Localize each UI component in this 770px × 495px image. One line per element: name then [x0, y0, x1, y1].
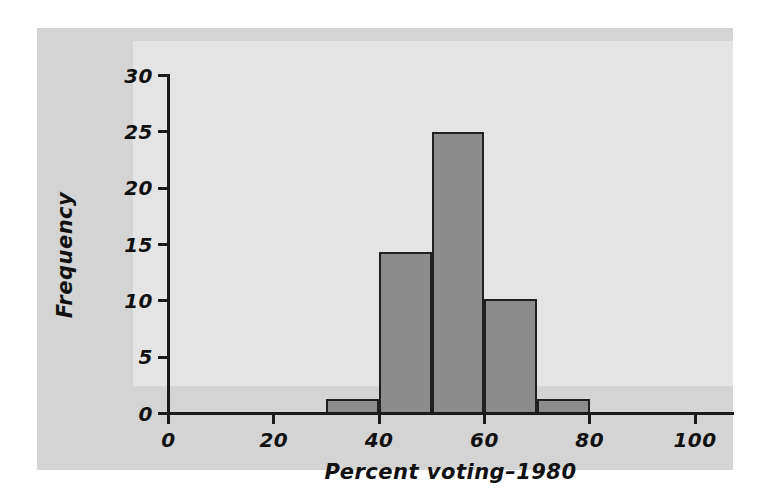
- y-axis-tick-label: 20: [124, 176, 153, 200]
- x-axis-tick: [378, 414, 381, 424]
- y-axis-tick-label: 0: [139, 402, 153, 426]
- y-axis-tick: [158, 187, 168, 190]
- histogram-figure: 051015202530 020406080100 Frequency Perc…: [0, 0, 770, 495]
- x-axis-tick: [694, 414, 697, 424]
- y-axis-tick-label: 15: [124, 233, 153, 257]
- histogram-bar: [484, 299, 537, 415]
- y-axis-title: Frequency: [53, 165, 77, 345]
- histogram-bar: [432, 132, 485, 415]
- x-axis-tick-label: 0: [161, 428, 175, 452]
- x-axis-tick: [272, 414, 275, 424]
- y-axis-tick-label: 10: [124, 289, 153, 313]
- y-axis-tick: [158, 243, 168, 246]
- figure-panel: 051015202530 020406080100 Frequency Perc…: [37, 28, 733, 470]
- y-axis-tick: [158, 130, 168, 133]
- histogram-bar: [379, 252, 432, 415]
- x-axis-tick-label: 20: [259, 428, 288, 452]
- x-axis-tick: [167, 414, 170, 424]
- x-axis-tick: [483, 414, 486, 424]
- x-axis-tick-label: 100: [673, 428, 716, 452]
- y-axis-tick-label: 30: [124, 64, 153, 88]
- y-axis-tick: [158, 299, 168, 302]
- y-axis-tick-label: 5: [139, 345, 153, 369]
- y-axis-tick-label: 25: [124, 120, 153, 144]
- y-axis-tick: [158, 356, 168, 359]
- y-axis-tick: [158, 74, 168, 77]
- x-axis-line: [167, 412, 734, 415]
- x-axis-tick-label: 40: [365, 428, 394, 452]
- x-axis-tick: [588, 414, 591, 424]
- x-axis-tick-label: 60: [470, 428, 499, 452]
- x-axis-title: Percent voting–1980: [167, 460, 734, 484]
- x-axis-tick-label: 80: [575, 428, 604, 452]
